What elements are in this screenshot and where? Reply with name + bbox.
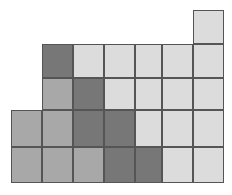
grid-cell-r3-c5 bbox=[135, 78, 162, 110]
grid-cell-r4-c6 bbox=[162, 110, 193, 147]
grid-cell-r4-c1 bbox=[11, 110, 42, 147]
grid-cell-r3-c7 bbox=[193, 78, 224, 110]
grid-cell-r4-c4 bbox=[104, 110, 135, 147]
grid-cell-r2-c7 bbox=[193, 44, 224, 78]
grid-cell-r5-c3 bbox=[73, 147, 104, 183]
grid-cell-r3-c4 bbox=[104, 78, 135, 110]
grid-cell-r4-c5 bbox=[135, 110, 162, 147]
grid-cell-r2-c6 bbox=[162, 44, 193, 78]
grid-cell-r3-c3 bbox=[73, 78, 104, 110]
grid-cell-r2-c2 bbox=[42, 44, 73, 78]
grid-cell-r4-c3 bbox=[73, 110, 104, 147]
grid-cell-r5-c6 bbox=[162, 147, 193, 183]
grid-cell-r5-c2 bbox=[42, 147, 73, 183]
shaded-grid-figure bbox=[0, 0, 232, 195]
grid-cell-r3-c6 bbox=[162, 78, 193, 110]
grid-cell-r2-c3 bbox=[73, 44, 104, 78]
grid-cell-r4-c2 bbox=[42, 110, 73, 147]
grid-cell-r5-c7 bbox=[193, 147, 224, 183]
grid-cell-r2-c4 bbox=[104, 44, 135, 78]
grid-cell-r5-c1 bbox=[11, 147, 42, 183]
grid-cell-r2-c5 bbox=[135, 44, 162, 78]
grid-cell-r5-c5 bbox=[135, 147, 162, 183]
grid-cell-r4-c7 bbox=[193, 110, 224, 147]
grid-cell-r1-c7 bbox=[193, 10, 224, 44]
grid-cell-r5-c4 bbox=[104, 147, 135, 183]
grid-cell-r3-c2 bbox=[42, 78, 73, 110]
